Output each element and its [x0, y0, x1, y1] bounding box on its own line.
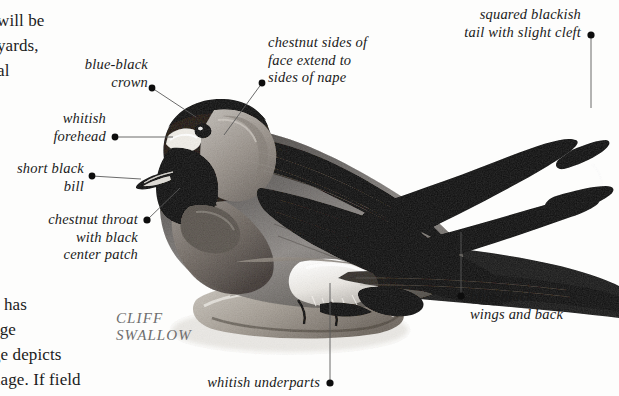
callout-blue-black-crown: blue-black crown: [32, 56, 148, 91]
annotated-bird-plate: will be yards, al e has age ge depicts n…: [0, 0, 619, 396]
body-text-bottom-fragment: e has age ge depicts nage. If field: [0, 292, 81, 392]
callout-squared-blackish-tail: squared blackish tail with slight cleft: [409, 6, 581, 41]
callout-chestnut-sides-of-face: chestnut sides of face extend to sides o…: [268, 34, 398, 87]
callout-chestnut-throat: chestnut throat with black center patch: [16, 211, 138, 264]
callout-whitish-underparts: whitish underparts: [176, 374, 320, 392]
callout-short-black-bill: short black bill: [0, 160, 84, 195]
species-caption: CLIFF SWALLOW: [116, 310, 192, 344]
callout-whitish-forehead: whitish forehead: [0, 110, 106, 145]
callout-blue-black-wings-and-back: blue-black wings and back: [470, 288, 610, 323]
